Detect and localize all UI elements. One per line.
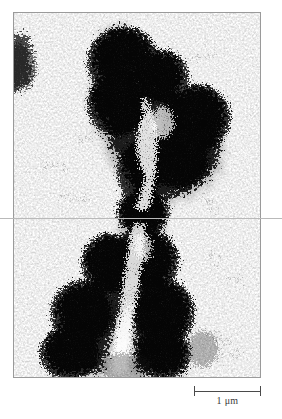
scale-bar-cap-right bbox=[260, 386, 261, 396]
crop-guide-line bbox=[0, 218, 282, 219]
scale-bar-cap-left bbox=[194, 386, 195, 396]
scale-bar-label: 1 μm bbox=[194, 395, 261, 406]
scale-bar-rule bbox=[194, 386, 261, 395]
scale-bar-line bbox=[194, 391, 261, 392]
figure-root: 1 μm bbox=[0, 0, 282, 419]
scale-bar: 1 μm bbox=[194, 386, 261, 406]
micrograph-image bbox=[14, 13, 260, 377]
micrograph-panel bbox=[13, 12, 261, 378]
